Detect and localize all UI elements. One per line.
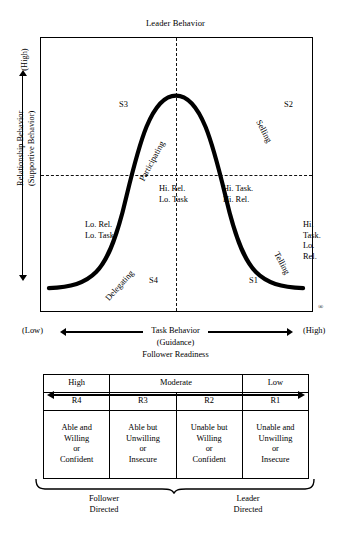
descriptor-s1: Hi. Task. Lo. Rel. [303,220,321,262]
readiness-desc-r1: Unable and Unwilling or Insecure [242,410,308,478]
descriptor-s1-line2: Lo. Rel. [303,241,321,262]
descriptor-s3-line1: Hi. Rel. [159,184,188,195]
readiness-desc-r2-line1: Unable but [177,423,242,434]
readiness-range-arrow [47,390,305,400]
y-axis-title-block: Relationship Behavior (Supportive Behavi… [15,48,38,248]
readiness-desc-r3-line1: Able but [110,423,175,434]
readiness-desc-r1-line4: Insecure [243,455,308,466]
leader-directed-line2: Directed [178,505,318,516]
bell-curve [41,38,312,311]
quadrant-code-s4: S4 [149,276,158,285]
direction-labels: Follower Directed Leader Directed [0,494,351,528]
leader-directed-label: Leader Directed [178,494,318,516]
descriptor-s3: Hi. Rel. Lo. Task [159,184,188,205]
leader-behavior-axis-title: Leader Behavior [0,19,351,29]
direction-braces [34,478,318,494]
descriptor-s2-line2: Hi. Rel. [223,195,253,206]
descriptor-s2-line1: Hi. Task. [223,184,253,195]
readiness-desc-r2-line4: Confident [177,455,242,466]
readiness-desc-r2: Unable but Willing or Confident [176,410,242,478]
readiness-desc-r1-line3: or [243,444,308,455]
descriptor-s4-line2: Lo. Task [85,231,114,242]
readiness-desc-r3-line4: Insecure [110,455,175,466]
readiness-desc-r1-line1: Unable and [243,423,308,434]
follower-readiness-label: Follower Readiness [0,350,351,359]
range-arrow-line [54,394,298,395]
quadrant-code-s3: S3 [119,100,128,109]
descriptor-s4-line1: Lo. Rel. [85,220,114,231]
readiness-desc-r3-line2: Unwilling [110,434,175,445]
quadrant-code-s2: S2 [284,100,293,109]
readiness-desc-r4-line2: Willing [44,434,109,445]
follower-directed-label: Follower Directed [34,494,174,516]
leader-directed-line1: Leader [178,494,318,505]
descriptor-s2: Hi. Task. Hi. Rel. [223,184,253,205]
y-axis-title-line1: Relationship Behavior [15,48,26,248]
readiness-desc-r2-line2: Willing [177,434,242,445]
readiness-desc-r4-line1: Able and [44,423,109,434]
readiness-desc-r3: Able but Unwilling or Insecure [110,410,176,478]
descriptor-s1-line1: Hi. Task. [303,220,321,241]
readiness-desc-r1-line2: Unwilling [243,434,308,445]
descriptor-s4: Lo. Rel. Lo. Task [85,220,114,241]
quadrant-code-s1: S1 [249,276,258,285]
follower-directed-line2: Directed [34,505,174,516]
relationship-behavior-axis: (High) Relationship Behavior (Supportive… [0,37,40,312]
range-arrow-right-icon [298,391,305,399]
range-arrow-left-icon [47,391,54,399]
readiness-desc-r4: Able and Willing or Confident [44,410,110,478]
registered-trademark-symbol: ® [318,303,323,311]
follower-directed-line1: Follower [34,494,174,505]
situational-leadership-figure: Leader Behavior (High) Relationship Beha… [0,0,351,534]
task-behavior-axis: (Low) (High) Task Behavior (Guidance) Fo… [0,326,351,372]
readiness-desc-r4-line3: or [44,444,109,455]
x-axis-title-line1: Task Behavior [0,326,351,335]
y-axis-title-line2: (Supportive Behavior) [26,48,37,248]
leadership-style-plot-area: S3 S2 S4 S1 Participating Selling Delega… [40,37,313,312]
x-axis-title-line2: (Guidance) [0,338,351,347]
readiness-desc-r3-line3: or [110,444,175,455]
y-axis-down-arrow-icon [19,275,27,281]
readiness-desc-r2-line3: or [177,444,242,455]
readiness-desc-r4-line4: Confident [44,455,109,466]
table-row-descriptions: Able and Willing or Confident Able but U… [44,410,309,478]
descriptor-s3-line2: Lo. Task [159,195,188,206]
